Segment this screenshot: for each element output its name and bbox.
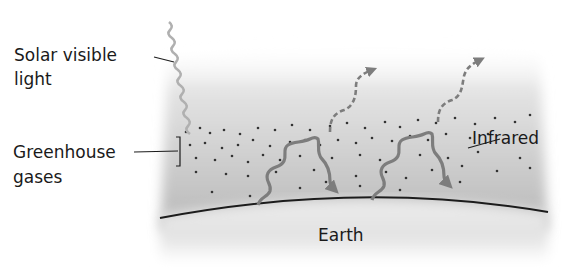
solar-label-line1: Solar visible xyxy=(14,45,117,66)
earth-label: Earth xyxy=(318,225,364,246)
solar-label-line2: light xyxy=(14,69,117,90)
greenhouse-label-line1: Greenhouse xyxy=(13,142,116,163)
solar-visible-light-label: Solar visible light xyxy=(14,45,117,90)
greenhouse-gases-label: Greenhouse gases xyxy=(13,142,116,188)
greenhouse-label-line2: gases xyxy=(13,167,116,188)
infrared-label: Infrared xyxy=(472,128,539,149)
